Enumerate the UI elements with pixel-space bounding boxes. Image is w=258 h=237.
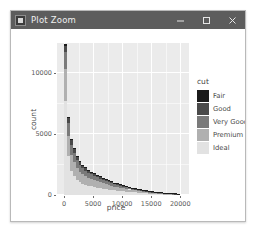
x-tick-mark (64, 196, 65, 198)
y-tick-label: 5000 (11, 130, 52, 138)
gridline (108, 43, 109, 195)
gridline (151, 43, 152, 195)
close-icon (228, 16, 237, 25)
plot-canvas: count price 0500010000 05000100001500020… (11, 29, 245, 222)
legend-key-swatch (197, 90, 209, 102)
window-title: Plot Zoom (31, 15, 167, 25)
histogram-bar-segment (70, 139, 73, 140)
histogram-bar-segment (67, 118, 70, 123)
x-tick-label: 20000 (170, 200, 191, 208)
gridline (166, 43, 167, 195)
window-controls (167, 11, 245, 29)
x-tick-label: 5000 (85, 200, 102, 208)
x-tick-mark (180, 196, 181, 198)
legend-item: Good (197, 102, 246, 115)
legend-item-label: Premium (213, 131, 243, 139)
legend-items: FairGoodVery GoodPremiumIdeal (197, 89, 246, 154)
minimize-button[interactable] (167, 11, 193, 29)
histogram-bar-segment (76, 157, 79, 160)
y-tick-mark (54, 134, 56, 135)
x-tick-mark (122, 196, 123, 198)
histogram-bar-segment (64, 69, 67, 101)
x-tick-mark (93, 196, 94, 198)
minimize-icon (176, 16, 185, 25)
histogram-bar-segment (79, 161, 82, 162)
gridline (57, 133, 189, 134)
x-tick-label: 0 (62, 200, 66, 208)
legend-key-swatch (197, 129, 209, 141)
y-tick-label: 0 (11, 191, 52, 199)
legend-item-label: Good (213, 105, 231, 113)
gridline (180, 43, 181, 195)
x-tick-label: 10000 (112, 200, 133, 208)
x-tick-label: 15000 (141, 200, 162, 208)
screen-root: Plot Zoom (0, 0, 258, 237)
histogram-bar-segment (76, 156, 79, 157)
histogram-bar-segment (64, 52, 67, 69)
close-button[interactable] (219, 11, 245, 29)
y-tick-mark (54, 73, 56, 74)
histogram-bar-segment (67, 117, 70, 118)
histogram-bar-segment (73, 149, 76, 153)
plot-window-icon (15, 15, 26, 26)
gridline (93, 43, 94, 195)
legend-key-swatch (197, 103, 209, 115)
legend-key-swatch (197, 116, 209, 128)
histogram-bar-segment (87, 170, 90, 171)
histogram-bar-segment (67, 123, 70, 135)
histogram-bar-segment (73, 148, 76, 149)
legend-item-label: Very Good (213, 118, 246, 126)
y-tick-mark (54, 195, 56, 196)
gridline (137, 43, 138, 195)
window-titlebar[interactable]: Plot Zoom (11, 11, 245, 29)
x-tick-mark (151, 196, 152, 198)
legend-item-label: Fair (213, 92, 225, 100)
maximize-button[interactable] (193, 11, 219, 29)
gridline (57, 72, 189, 73)
legend-item: Premium (197, 128, 246, 141)
legend-item: Very Good (197, 115, 246, 128)
histogram-bar-segment (64, 44, 67, 45)
gridline (122, 43, 123, 195)
histogram-bar-segment (84, 167, 87, 168)
legend-key-swatch (197, 142, 209, 154)
y-tick-label: 10000 (11, 69, 52, 77)
plot-zoom-window: Plot Zoom (10, 10, 246, 222)
gridline (57, 103, 189, 104)
legend-title: cut (197, 77, 246, 86)
legend-item: Ideal (197, 141, 246, 154)
histogram-bar-segment (70, 140, 73, 144)
histogram-bar-segment (90, 172, 93, 173)
legend-item-label: Ideal (213, 144, 230, 152)
histogram-bar-segment (81, 165, 84, 166)
histogram-bar-segment (96, 175, 99, 176)
legend: cut FairGoodVery GoodPremiumIdeal (197, 77, 246, 154)
maximize-icon (202, 16, 211, 25)
histogram-bar-segment (64, 46, 67, 52)
plot-panel (57, 43, 189, 195)
legend-item: Fair (197, 89, 246, 102)
